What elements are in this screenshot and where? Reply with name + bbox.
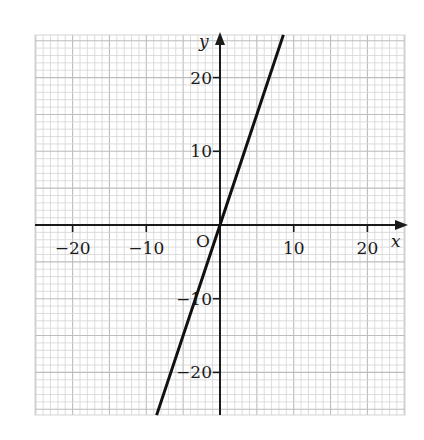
chart: −20−1010202010−10−20 x y O bbox=[0, 0, 424, 440]
x-axis-label: x bbox=[391, 231, 401, 251]
y-tick-label: 10 bbox=[190, 141, 212, 161]
origin-label: O bbox=[196, 231, 210, 251]
y-axis-arrow-icon bbox=[215, 32, 225, 45]
x-axis-arrow-icon bbox=[395, 220, 408, 230]
x-tick-label: 20 bbox=[357, 238, 379, 258]
x-tick-label: 10 bbox=[283, 238, 305, 258]
y-tick-label: 20 bbox=[190, 68, 212, 88]
y-axis-label: y bbox=[198, 31, 209, 51]
x-tick-label: −20 bbox=[55, 238, 91, 258]
x-tick-label: −10 bbox=[128, 238, 164, 258]
y-tick-label: −20 bbox=[176, 362, 212, 382]
